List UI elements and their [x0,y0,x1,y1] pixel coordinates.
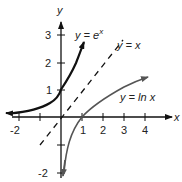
y-tick-label: -2 [38,167,48,179]
y-tick-label: 2 [45,57,51,69]
function-graph: -2 1 2 3 4 3 2 1 -2 y x y = ex y = x y =… [0,0,182,182]
y-axis-label: y [56,4,64,16]
x-tick-label: 4 [142,124,148,136]
exp-label: y = ex [74,27,104,41]
identity-label: y = x [116,39,141,51]
x-tick-label: 3 [121,124,127,136]
y-tick-label: 3 [45,29,51,41]
ln-label: y = ln x [119,91,156,103]
x-tick-label: -2 [10,124,20,136]
x-tick-label: 2 [100,124,106,136]
y-tick-label: 1 [46,84,52,96]
x-tick-label: 1 [80,124,86,136]
x-axis-label: x [173,111,180,123]
exp-curve [10,42,84,114]
